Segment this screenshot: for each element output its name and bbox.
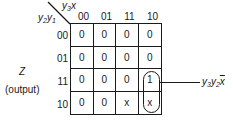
row-header-10: 10 (50, 99, 68, 110)
column-header-01: 01 (95, 11, 118, 22)
kmap-cell: 0 (94, 69, 117, 92)
kmap-cell: 0 (116, 69, 139, 92)
row-header-00: 00 (50, 30, 68, 41)
kmap-cell: 0 (71, 47, 94, 70)
kmap-cell: x (116, 92, 139, 115)
grouping-term-label: y3y2x (202, 77, 225, 90)
column-header-00: 00 (72, 11, 95, 22)
kmap-cell: 0 (71, 69, 94, 92)
kmap-cell: 0 (116, 47, 139, 70)
row-header-01: 01 (50, 53, 68, 64)
kmap-cell: 0 (71, 24, 94, 47)
output-name: Z (19, 67, 25, 77)
kmap-cell: 0 (94, 47, 117, 70)
kmap-cell: 0 (116, 24, 139, 47)
kmap-cell: 0 (94, 92, 117, 115)
row-variable-label: y2y1 (38, 13, 56, 26)
kmap-cell: 0 (94, 24, 117, 47)
column-header-10: 10 (141, 11, 164, 22)
output-caption: (output) (5, 85, 39, 95)
kmap-cell: 0 (139, 47, 162, 70)
grouping-leader-line (160, 82, 200, 83)
row-header-11: 11 (50, 76, 68, 87)
kmap-cell: 0 (139, 24, 162, 47)
column-header-11: 11 (118, 11, 141, 22)
grouping-loop (143, 71, 160, 113)
kmap-cell: 0 (71, 92, 94, 115)
